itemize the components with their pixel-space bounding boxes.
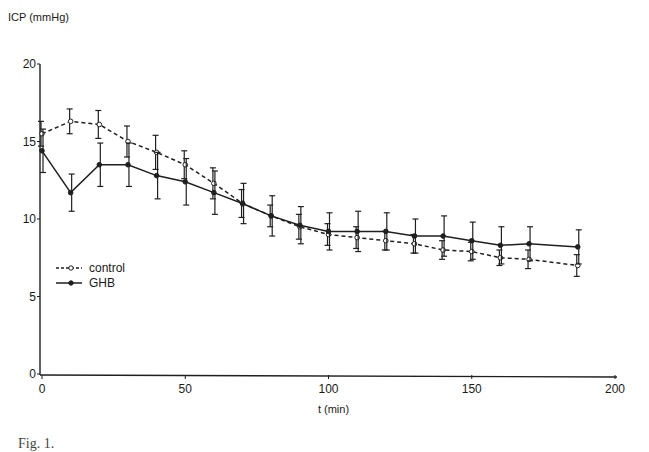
data-point bbox=[183, 162, 188, 167]
x-tick-label: 200 bbox=[605, 382, 625, 396]
data-point bbox=[575, 245, 580, 250]
data-point bbox=[40, 149, 45, 154]
data-point bbox=[212, 190, 217, 195]
data-point bbox=[126, 162, 131, 167]
series-line-control bbox=[42, 121, 578, 265]
data-point bbox=[212, 181, 217, 186]
data-point bbox=[97, 122, 102, 127]
data-point bbox=[269, 214, 274, 219]
data-point bbox=[498, 255, 503, 260]
y-tick-label: 0 bbox=[29, 367, 36, 381]
data-point bbox=[498, 243, 503, 248]
x-tick-label: 150 bbox=[462, 382, 482, 396]
data-point bbox=[412, 242, 417, 247]
legend-label: control bbox=[89, 261, 125, 275]
y-tick-label: 5 bbox=[29, 290, 36, 304]
legend-label: GHB bbox=[89, 276, 115, 290]
x-tick-label: 0 bbox=[39, 382, 46, 396]
data-point bbox=[68, 190, 73, 195]
data-point bbox=[326, 229, 331, 234]
data-point bbox=[469, 238, 474, 243]
data-point bbox=[469, 249, 474, 254]
data-point bbox=[183, 180, 188, 185]
data-point bbox=[412, 234, 417, 239]
data-point bbox=[384, 238, 389, 243]
data-point bbox=[240, 201, 245, 206]
y-tick-label: 15 bbox=[23, 135, 37, 149]
data-point bbox=[441, 248, 446, 253]
legend-marker bbox=[69, 281, 73, 285]
data-point bbox=[355, 229, 360, 234]
data-point bbox=[527, 242, 532, 247]
data-point bbox=[97, 162, 102, 167]
series-line-ghb bbox=[42, 151, 578, 247]
x-axis-label: t (min) bbox=[0, 403, 649, 415]
data-point bbox=[355, 235, 360, 240]
y-tick-label: 10 bbox=[23, 212, 37, 226]
data-point bbox=[154, 173, 159, 178]
figure-caption: Fig. 1. bbox=[18, 436, 54, 452]
legend-marker bbox=[69, 266, 73, 270]
data-point bbox=[441, 234, 446, 239]
x-tick-label: 50 bbox=[179, 382, 193, 396]
y-tick-label: 20 bbox=[23, 57, 37, 71]
x-tick-label: 100 bbox=[318, 382, 338, 396]
data-point bbox=[68, 119, 73, 124]
data-point bbox=[384, 229, 389, 234]
data-point bbox=[40, 131, 45, 136]
data-point bbox=[298, 223, 303, 228]
